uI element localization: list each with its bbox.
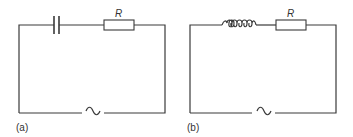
circuit-b-wire-top-left: [190, 25, 222, 113]
circuit-a-wire-top-left: [19, 25, 54, 113]
resistor-label: R: [115, 8, 122, 19]
capacitor-icon: [54, 16, 59, 34]
resistor-icon: [104, 20, 134, 30]
ac-source-icon: [257, 107, 271, 115]
resistor-icon: [276, 20, 306, 30]
circuit-b: R (b): [187, 8, 336, 133]
circuit-a-label: (a): [16, 122, 28, 133]
circuit-a-wire-right: [104, 25, 165, 113]
circuit-b-wire-right: [275, 25, 336, 113]
ac-source-icon: [86, 107, 100, 115]
resistor-label: R: [287, 8, 294, 19]
circuit-diagrams: R (a) R (b): [0, 0, 353, 137]
inductor-icon: [222, 20, 256, 27]
circuit-b-label: (b): [187, 122, 199, 133]
circuit-a: R (a): [16, 8, 165, 133]
